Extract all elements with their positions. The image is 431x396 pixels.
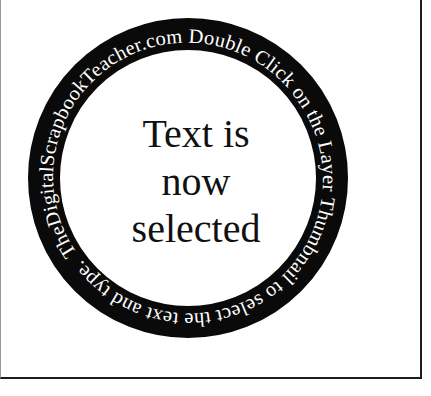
center-caption-line-1: Text is bbox=[142, 111, 249, 156]
center-caption-line-2: now bbox=[162, 159, 231, 204]
editor-canvas: TheDigitalScrapbookTeacher.com Double Cl… bbox=[0, 0, 431, 396]
center-caption: Text is now selected bbox=[132, 111, 261, 251]
center-caption-line-3: selected bbox=[132, 206, 261, 251]
badge-graphic: TheDigitalScrapbookTeacher.com Double Cl… bbox=[0, 0, 431, 396]
